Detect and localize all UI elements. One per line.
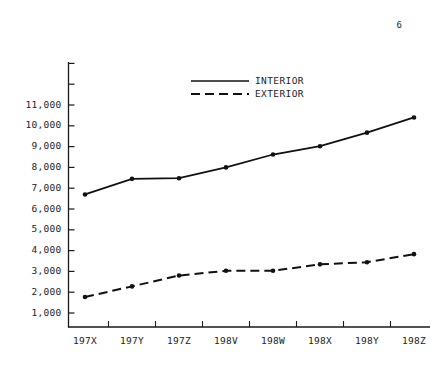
x-axis-tick-label: 198Y [343, 335, 391, 346]
y-axis-tick-label: 9,000 [31, 140, 61, 151]
x-axis-tick-label: 197Y [108, 335, 156, 346]
line-chart-plot [0, 0, 436, 365]
data-point [318, 262, 323, 267]
data-point [224, 268, 229, 273]
data-point [271, 268, 276, 273]
y-axis-tick-label: 6,000 [31, 203, 61, 214]
x-axis-ticks [109, 321, 391, 327]
x-axis-tick-label: 197X [61, 335, 109, 346]
data-point [412, 115, 417, 120]
legend-label-interior: INTERIOR [255, 75, 304, 86]
data-point [412, 252, 417, 257]
data-point [130, 177, 135, 182]
data-point [365, 260, 370, 265]
x-axis-tick-label: 197Z [155, 335, 203, 346]
legend-label-exterior: EXTERIOR [255, 88, 304, 99]
x-axis-tick-label: 198W [249, 335, 297, 346]
y-axis-ticks [69, 63, 75, 313]
y-axis-tick-label: 8,000 [31, 161, 61, 172]
data-point [224, 165, 229, 170]
y-axis-tick-label: 11,000 [25, 99, 61, 110]
chart-series-layer [83, 115, 417, 299]
data-point [318, 144, 323, 149]
data-point [83, 295, 88, 300]
chart-axes [68, 62, 430, 328]
data-point [365, 130, 370, 135]
y-axis-tick-label: 5,000 [31, 223, 61, 234]
data-point [177, 273, 182, 278]
x-axis-tick-label: 198V [202, 335, 250, 346]
x-axis-tick-label: 198Z [390, 335, 436, 346]
series-line [85, 254, 414, 297]
series-interior [83, 115, 417, 197]
x-axis-tick-label: 198X [296, 335, 344, 346]
y-axis-tick-label: 4,000 [31, 244, 61, 255]
y-axis-tick-label: 2,000 [31, 286, 61, 297]
data-point [271, 152, 276, 157]
data-point [177, 176, 182, 181]
series-line [85, 117, 414, 194]
y-axis-tick-label: 10,000 [25, 119, 61, 130]
y-axis-tick-label: 3,000 [31, 265, 61, 276]
data-point [83, 192, 88, 197]
series-exterior [83, 252, 417, 299]
y-axis-tick-label: 1,000 [31, 307, 61, 318]
data-point [130, 284, 135, 289]
legend-sample-lines [191, 81, 249, 94]
y-axis-tick-label: 7,000 [31, 182, 61, 193]
chart-page: 6 1,0002,0003,0004,0005,0006,0007,0008,0… [0, 0, 436, 365]
